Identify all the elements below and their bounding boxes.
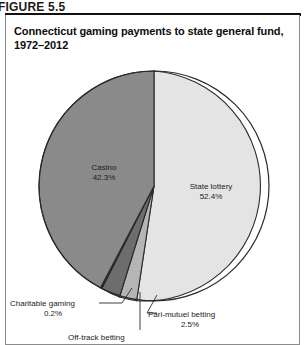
callout-label-pari-mutuel: Pari-mutuel betting 2.5% [148,310,232,330]
chart-title-line-1: Connecticut gaming payments to state gen… [14,25,283,37]
slice-label-casino-name: Casino [92,163,117,172]
figure-container: FIGURE 5.5 Connecticut gaming payments t… [0,0,306,345]
callout-pari-mutuel-pct: 2.5% [148,320,232,330]
callout-label-off-track: Off-track betting [68,333,125,343]
callout-label-charitable-gaming: Charitable gaming 0.2% [10,299,96,319]
figure-number-label: FIGURE 5.5 [0,0,65,14]
chart-title-line-2: 1972–2012 [14,39,68,51]
slice-label-state-lottery: State lottery 52.4% [178,182,244,202]
slice-label-casino: Casino 42.3% [74,163,134,183]
callout-charitable-name: Charitable gaming [10,299,75,308]
slice-label-state-lottery-name: State lottery [190,182,233,191]
callout-off-track-name: Off-track betting [68,333,125,342]
callout-pari-mutuel-name: Pari-mutuel betting [148,310,215,319]
slice-label-state-lottery-pct: 52.4% [178,192,244,202]
page-title: Connecticut gaming payments to state gen… [14,24,284,52]
callout-charitable-pct: 0.2% [10,309,96,319]
slice-label-casino-pct: 42.3% [74,173,134,183]
